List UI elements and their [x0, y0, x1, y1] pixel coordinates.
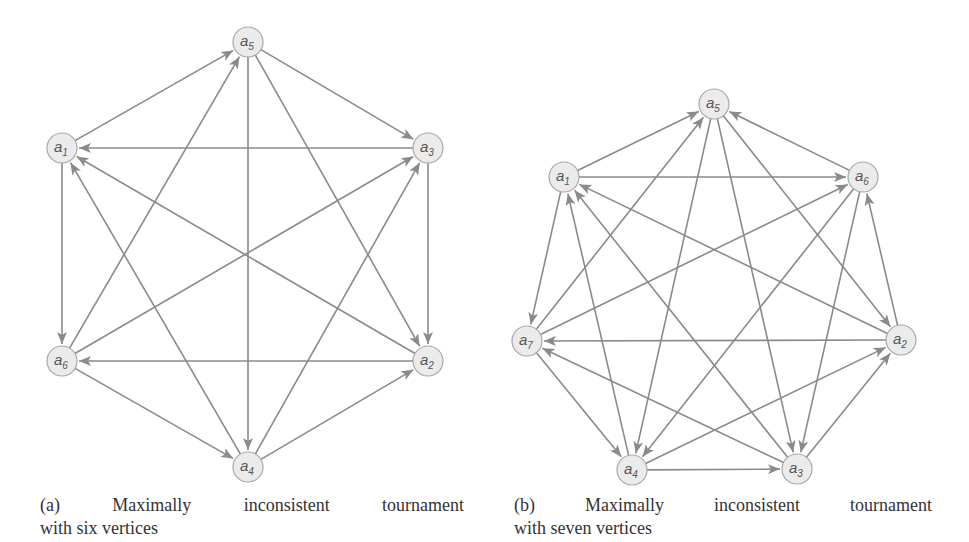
caption-b-line2: with seven vertices [514, 517, 932, 540]
tournament-figure: a5a1a3a6a2a4 a5a1a6a7a2a4a3 [0, 0, 969, 542]
edge-a1-to-a5 [577, 111, 698, 170]
caption-a: (a) Maximally inconsistent tournament wi… [40, 494, 464, 540]
edge-a6-to-a4 [75, 368, 233, 458]
edge-a6-to-a3 [801, 192, 860, 453]
edge-a4-to-a3 [647, 469, 780, 470]
node-a7: a7 [512, 326, 542, 356]
edge-a4-to-a1 [568, 194, 629, 456]
edge-a2-to-a7 [544, 340, 886, 341]
edge-a4-to-a1 [71, 163, 241, 454]
edge-a2-to-a6 [867, 194, 898, 326]
edge-a5-to-a3 [717, 119, 793, 453]
edge-a5-to-a3 [261, 50, 413, 140]
node-a5: a5 [699, 89, 729, 119]
edge-a4-to-a2 [646, 347, 886, 463]
edge-a1-to-a5 [75, 50, 233, 140]
graph-six-vertices: a5a1a3a6a2a4 [47, 27, 443, 482]
graph-seven-vertices: a5a1a6a7a2a4a3 [512, 89, 916, 485]
node-a4: a4 [233, 452, 263, 482]
caption-a-line2: with six vertices [40, 517, 464, 540]
node-a3: a3 [413, 133, 443, 163]
node-a3: a3 [782, 454, 812, 484]
node-a1: a1 [47, 133, 77, 163]
edges [62, 50, 428, 460]
edges [531, 111, 898, 469]
edge-a7-to-a6 [540, 184, 847, 334]
node-a5: a5 [233, 27, 263, 57]
edge-a2-to-a1 [579, 184, 887, 333]
edge-a4-to-a2 [261, 370, 413, 460]
caption-a-line1: (a) Maximally inconsistent tournament [40, 494, 464, 517]
edge-a6-to-a4 [643, 189, 854, 457]
edge-a4-to-a3 [255, 163, 419, 454]
edge-a3-to-a1 [575, 190, 788, 457]
node-a1: a1 [549, 162, 579, 192]
node-a2: a2 [413, 346, 443, 376]
node-a6: a6 [47, 346, 77, 376]
nodes: a5a1a6a7a2a4a3 [512, 89, 916, 485]
node-a2: a2 [886, 325, 916, 355]
edge-a6-to-a3 [75, 157, 413, 354]
caption-b: (b) Maximally inconsistent tournament wi… [514, 494, 932, 540]
edge-a6-to-a5 [729, 111, 849, 170]
edge-a5-to-a4 [636, 119, 711, 454]
edge-a2-to-a1 [77, 157, 415, 354]
node-a4: a4 [617, 455, 647, 485]
node-a6: a6 [848, 162, 878, 192]
caption-b-line1: (b) Maximally inconsistent tournament [514, 494, 932, 517]
